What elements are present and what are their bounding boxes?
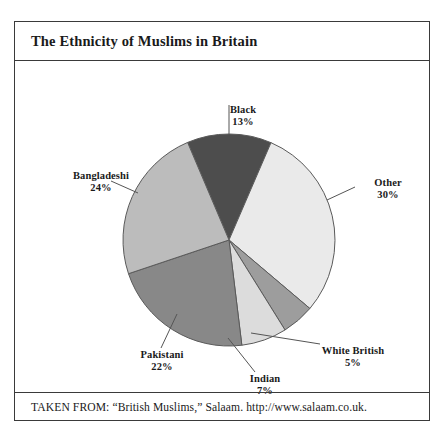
pie-slices (123, 134, 335, 346)
pie-label-bangladeshi: Bangladeshi 24% (51, 170, 151, 195)
pie-label-indian: Indian 7% (232, 373, 298, 398)
pie-label-black: Black 13% (201, 104, 285, 129)
leader-line-other (327, 187, 355, 200)
pie-label-indian-name: Indian (250, 373, 280, 384)
source-divider (15, 392, 429, 393)
page-title: The Ethnicity of Muslims in Britain (31, 33, 257, 50)
pie-label-other-value: 30% (357, 189, 419, 201)
pie-label-pakistani-value: 22% (119, 361, 205, 373)
pie-label-bangladeshi-name: Bangladeshi (73, 170, 129, 181)
pie-label-other: Other 30% (357, 177, 419, 202)
pie-label-other-name: Other (374, 177, 401, 188)
figure-frame: The Ethnicity of Muslims in Britain (14, 21, 430, 421)
pie-chart: Black 13% Other 30% Bangladeshi 24% Paki… (15, 61, 429, 392)
source-caption: TAKEN FROM: “British Muslims,” Salaam. h… (31, 401, 367, 414)
pie-label-white-british-name: White British (322, 345, 384, 356)
pie-label-pakistani: Pakistani 22% (119, 349, 205, 374)
pie-label-black-name: Black (230, 104, 256, 115)
pie-label-white-british: White British 5% (303, 345, 403, 370)
pie-label-bangladeshi-value: 24% (51, 182, 151, 194)
pie-label-white-british-value: 5% (303, 357, 403, 369)
pie-label-pakistani-name: Pakistani (141, 349, 184, 360)
pie-label-black-value: 13% (201, 116, 285, 128)
